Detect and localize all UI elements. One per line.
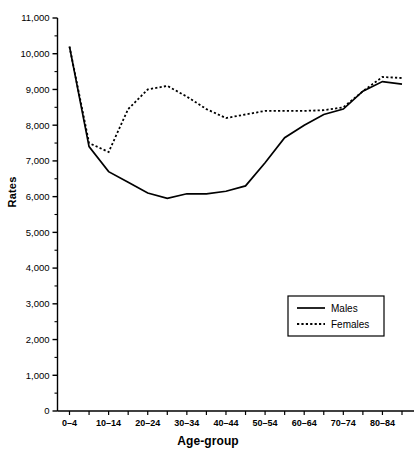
y-tick-label: 3,000 — [26, 298, 50, 309]
y-tick-label: 5,000 — [26, 227, 50, 238]
y-tick-label: 4,000 — [26, 262, 50, 273]
y-tick-label: 11,000 — [21, 12, 49, 23]
chart-figure: Rates 01,0002,0003,0004,0005,0006,0007,0… — [0, 0, 416, 455]
y-tick-label: 1,000 — [26, 370, 50, 381]
y-tick-label: 2,000 — [26, 334, 50, 345]
y-tick-label: 6,000 — [26, 191, 50, 202]
series-line-males — [70, 47, 403, 199]
x-tick-label: 80–84 — [370, 418, 395, 428]
y-axis-title: Rates — [6, 162, 18, 222]
x-tick-label: 20–24 — [135, 418, 160, 428]
x-axis-title: Age-group — [0, 434, 416, 448]
x-tick-label: 60–64 — [292, 418, 317, 428]
x-tick-label: 30–34 — [174, 418, 199, 428]
y-axis-ticks — [53, 18, 58, 411]
x-tick-label: 50–54 — [253, 418, 278, 428]
y-tick-label: 9,000 — [26, 84, 50, 95]
y-tick-label: 8,000 — [26, 120, 50, 131]
chart-legend[interactable]: Males Females — [288, 296, 384, 336]
x-tick-label: 0–4 — [62, 418, 77, 428]
y-tick-label: 10,000 — [20, 48, 49, 59]
y-tick-label: 7,000 — [26, 155, 50, 166]
legend-label-males: Males — [331, 303, 358, 314]
y-tick-label: 0 — [44, 405, 49, 416]
x-tick-label: 70–74 — [331, 418, 356, 428]
x-axis-tick-labels: 0–410–1420–2430–3440–4450–5460–6470–7480… — [62, 418, 395, 428]
legend-label-females: Females — [331, 319, 369, 330]
x-tick-label: 40–44 — [213, 418, 238, 428]
line-chart-plot: 01,0002,0003,0004,0005,0006,0007,0008,00… — [0, 0, 416, 455]
series-line-females — [70, 47, 403, 152]
y-axis-tick-labels: 01,0002,0003,0004,0005,0006,0007,0008,00… — [20, 12, 49, 416]
x-tick-label: 10–14 — [96, 418, 121, 428]
